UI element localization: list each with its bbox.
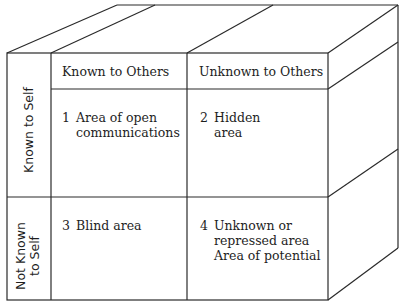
top-diagonal-1 bbox=[51, 5, 155, 53]
cell-text-line: Hidden bbox=[214, 110, 260, 125]
top-right-diagonal bbox=[328, 5, 398, 53]
cell-text-line: communications bbox=[76, 125, 180, 140]
right-diagonal-bottom bbox=[328, 248, 398, 300]
cell-text-line: area bbox=[214, 125, 260, 140]
right-diagonal-header bbox=[328, 42, 398, 89]
cell-text-line: Unknown or bbox=[214, 218, 320, 233]
column-header-unknown-to-others: Unknown to Others bbox=[199, 64, 323, 79]
right-diagonal-mid bbox=[328, 149, 398, 197]
cell-hidden-area: 2 Hidden area bbox=[200, 110, 260, 140]
cell-number: 2 bbox=[200, 110, 214, 140]
cell-number: 3 bbox=[62, 218, 76, 233]
top-diagonal-2 bbox=[187, 5, 273, 53]
row-header-not-known-to-self: Not Known to Self bbox=[14, 216, 44, 296]
top-left-diagonal bbox=[7, 5, 117, 53]
cell-text-line: Blind area bbox=[76, 218, 142, 233]
cell-number: 4 bbox=[200, 218, 214, 263]
cell-open-area: 1 Area of open communications bbox=[62, 110, 180, 140]
row-header-line2: to Self bbox=[28, 216, 42, 296]
cell-number: 1 bbox=[62, 110, 76, 140]
cell-unknown-area: 4 Unknown or repressed area Area of pote… bbox=[200, 218, 320, 263]
row-header-known-to-self: Known to Self bbox=[22, 75, 36, 185]
row-header-line1: Not Known bbox=[14, 216, 28, 296]
cell-text-line: Area of open bbox=[76, 110, 180, 125]
johari-window-diagram: Known to Others Unknown to Others Known … bbox=[0, 0, 403, 306]
column-header-known-to-others: Known to Others bbox=[62, 64, 169, 79]
cell-text-line: repressed area bbox=[214, 233, 320, 248]
cell-text-line: Area of potential bbox=[214, 248, 320, 263]
cell-blind-area: 3 Blind area bbox=[62, 218, 142, 233]
